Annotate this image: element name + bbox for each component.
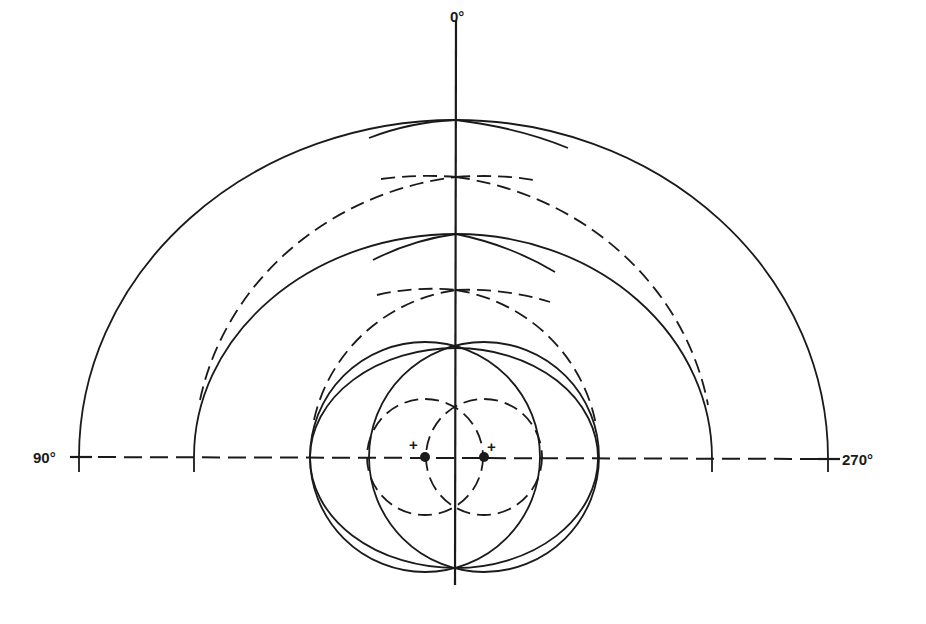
vertical-axis xyxy=(455,20,456,585)
solid-outer-left-bulge xyxy=(310,348,456,568)
dashed-short-4-right xyxy=(456,290,550,302)
label-90-degrees: 90° xyxy=(33,449,56,466)
left-source-point xyxy=(420,452,430,462)
left-source-plus-marker: + xyxy=(409,436,418,453)
short-arc-3-right xyxy=(456,234,555,272)
dashed-arc-2-right xyxy=(456,177,708,405)
horizontal-axis xyxy=(72,457,834,459)
dashed-arc-4-right xyxy=(456,290,596,425)
dashed-arc-2-left xyxy=(200,177,456,400)
label-0-degrees: 0° xyxy=(450,8,464,25)
short-arc-3-left xyxy=(373,234,456,260)
dashed-short-2-left xyxy=(381,176,456,179)
outer-solid-arc-right xyxy=(456,120,828,472)
label-270-degrees: 270° xyxy=(842,451,873,468)
right-source-plus-marker: + xyxy=(487,438,496,455)
outer-solid-arc-left xyxy=(79,120,456,472)
wavefront-diagram: 0° 90° 270° + + xyxy=(0,0,926,624)
